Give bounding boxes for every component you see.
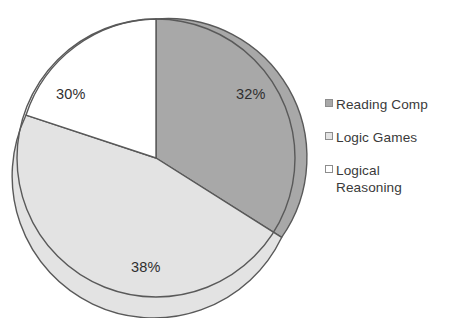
legend-label-reading-comp: Reading Comp <box>336 96 428 113</box>
legend-item-logical-reasoning[interactable]: LogicalReasoning <box>325 162 449 196</box>
legend-label-line1-reading-comp: Reading Comp <box>336 97 428 112</box>
chart-legend: Reading Comp Logic Games LogicalReasonin… <box>325 96 449 212</box>
pie-data-label-logical-reasoning: 30% <box>56 86 86 102</box>
legend-item-reading-comp[interactable]: Reading Comp <box>325 96 449 113</box>
legend-label-logical-reasoning: LogicalReasoning <box>336 162 402 196</box>
legend-label-line1-logical-reasoning: Logical <box>336 163 380 178</box>
legend-swatch-icon-logical-reasoning <box>325 165 333 173</box>
legend-label-line2-logical-reasoning: Reasoning <box>336 179 402 196</box>
pie-data-label-logic-games: 38% <box>131 259 161 275</box>
pie-data-label-reading-comp: 32% <box>236 86 266 102</box>
legend-swatch-icon-logic-games <box>325 132 333 140</box>
legend-label-line1-logic-games: Logic Games <box>336 130 417 145</box>
legend-label-logic-games: Logic Games <box>336 129 417 146</box>
legend-item-logic-games[interactable]: Logic Games <box>325 129 449 146</box>
legend-swatch-icon-reading-comp <box>325 99 333 107</box>
pie-chart-figure: 32% 38% 30% Reading Comp Logic Games Log… <box>0 0 449 318</box>
